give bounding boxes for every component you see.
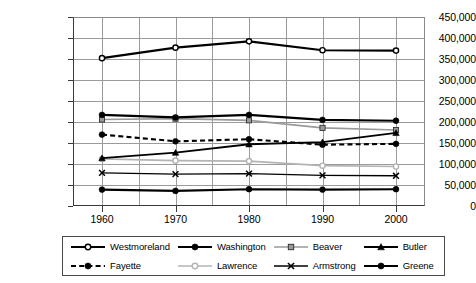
data-point-marker <box>99 112 105 118</box>
legend-symbol <box>176 260 214 272</box>
legend-item-beaver[interactable]: Beaver <box>266 237 356 256</box>
data-point-marker <box>99 56 104 61</box>
data-point-marker <box>246 158 251 163</box>
data-point-marker <box>246 118 251 123</box>
data-point-marker <box>378 262 384 268</box>
legend-item-greene[interactable]: Greene <box>356 256 444 275</box>
data-point-marker <box>320 125 325 130</box>
data-point-marker <box>85 244 90 249</box>
legend-symbol <box>272 260 310 272</box>
data-point-marker <box>320 142 326 148</box>
data-point-marker <box>85 262 91 268</box>
legend-symbol <box>69 260 107 272</box>
data-point-marker <box>288 244 293 249</box>
legend-label: Westmoreland <box>110 242 170 252</box>
data-point-marker <box>192 263 197 268</box>
data-point-marker <box>173 158 178 163</box>
legend-label: Washington <box>217 242 266 252</box>
data-point-marker <box>246 39 251 44</box>
chart-legend: WestmorelandWashingtonBeaverButlerFayett… <box>62 236 445 276</box>
legend-label: Lawrence <box>217 261 257 271</box>
legend-label: Fayette <box>110 261 141 271</box>
legend-symbol <box>176 241 214 253</box>
data-point-marker <box>320 163 325 168</box>
legend-item-washington[interactable]: Washington <box>170 237 266 256</box>
data-point-marker <box>99 187 105 193</box>
data-point-marker <box>173 188 179 194</box>
legend-label: Greene <box>403 261 434 271</box>
data-point-marker <box>320 117 326 123</box>
data-point-marker <box>173 114 179 120</box>
legend-label: Beaver <box>313 242 343 252</box>
chart-plot-area: 450,000400,000350,000300,000250,000200,0… <box>0 0 476 232</box>
legend-label: Armstrong <box>313 261 356 271</box>
data-point-marker <box>393 141 399 147</box>
data-point-marker <box>173 138 179 144</box>
data-point-marker <box>246 136 252 142</box>
data-point-marker <box>173 45 178 50</box>
data-point-marker <box>393 186 399 192</box>
legend-symbol <box>272 241 310 253</box>
data-point-marker <box>393 164 398 169</box>
legend-symbol <box>362 241 400 253</box>
data-point-marker <box>246 186 252 192</box>
data-point-marker <box>393 48 398 53</box>
data-point-marker <box>393 118 399 124</box>
data-point-marker <box>246 112 252 118</box>
data-point-marker <box>320 48 325 53</box>
legend-item-butler[interactable]: Butler <box>356 237 444 256</box>
legend-symbol <box>362 260 400 272</box>
legend-item-lawrence[interactable]: Lawrence <box>170 256 266 275</box>
series-lines <box>0 0 476 232</box>
legend-item-fayette[interactable]: Fayette <box>63 256 170 275</box>
data-point-marker <box>99 132 105 138</box>
legend-label: Butler <box>403 242 427 252</box>
data-point-marker <box>320 187 326 193</box>
legend-item-westmoreland[interactable]: Westmoreland <box>63 237 170 256</box>
data-point-marker <box>192 243 198 249</box>
chart-figure: 450,000400,000350,000300,000250,000200,0… <box>0 0 476 283</box>
legend-symbol <box>69 241 107 253</box>
legend-item-armstrong[interactable]: Armstrong <box>266 256 356 275</box>
